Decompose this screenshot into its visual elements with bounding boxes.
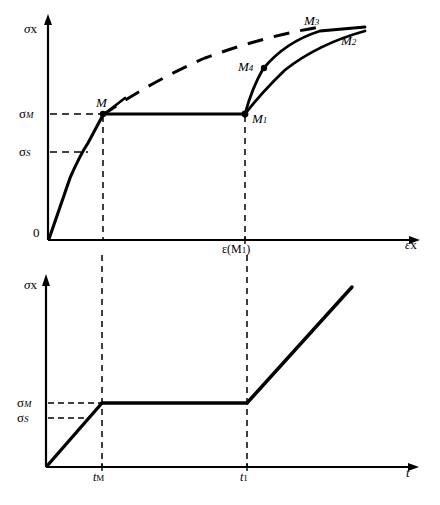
figure-canvas: [0, 0, 440, 505]
point-M1: [242, 111, 249, 118]
bottom-y-tick-sigma-s: σS: [17, 411, 29, 424]
annotation-M3: M3: [304, 14, 319, 27]
bottom-chart-group: [42, 255, 419, 471]
annotation-M: M: [96, 96, 107, 109]
bottom-curve-loading: [47, 403, 102, 466]
top-chart-group: [44, 14, 420, 244]
stress-strain-figure: σx εx 0 σM σS ε(M1) M M1 M2 M3 M4 σx t σ…: [0, 0, 440, 505]
top-y-axis-arrow: [44, 14, 52, 25]
top-x-tick-label-eps-m1: ε(M1): [222, 243, 250, 255]
bottom-curve-reload: [247, 287, 352, 403]
annotation-M2: M2: [341, 34, 356, 47]
top-y-tick-sigma-m: σM: [19, 107, 34, 120]
bottom-x-axis-label: t: [406, 466, 410, 479]
top-y-axis-label: σx: [24, 22, 37, 35]
top-origin-label: 0: [33, 226, 40, 239]
annotation-M4: M4: [238, 60, 253, 73]
point-M: [100, 111, 106, 117]
top-curve-elastic: [49, 115, 103, 239]
top-curve-envelope: [103, 27, 320, 115]
bottom-y-axis-arrow: [42, 274, 50, 286]
point-M4: [261, 65, 267, 71]
bottom-x-tick-label-t-m: tM: [93, 471, 104, 483]
bottom-x-tick-label-t-1: t1: [240, 471, 248, 483]
bottom-y-tick-sigma-m: σM: [17, 396, 32, 409]
annotation-M1: M1: [252, 112, 267, 125]
top-y-tick-sigma-s: σS: [19, 145, 31, 158]
top-x-axis-label: εx: [405, 238, 417, 251]
bottom-y-axis-label: σx: [24, 278, 37, 291]
